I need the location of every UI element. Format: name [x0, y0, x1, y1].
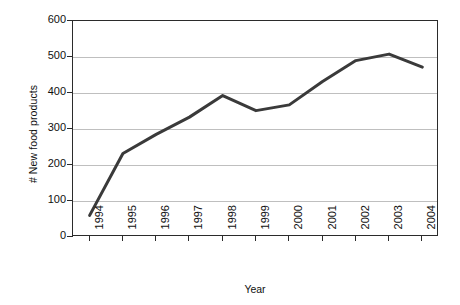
x-axis-tick-label: 2000 — [293, 205, 304, 245]
x-axis-tick-label: 2004 — [426, 205, 437, 245]
plot-area — [72, 20, 438, 236]
x-axis-tick-label: 1997 — [193, 205, 204, 245]
x-axis-tick-label: 1999 — [260, 205, 271, 245]
y-axis-tick-labels: 0100200300400500600 — [30, 0, 66, 305]
x-axis-tickmark — [355, 236, 356, 241]
x-axis-tickmark — [255, 236, 256, 241]
x-axis-tickmark — [188, 236, 189, 241]
y-axis-tick-label: 500 — [32, 50, 66, 61]
x-axis-tick-label: 1998 — [227, 205, 238, 245]
y-axis-tick-label: 100 — [32, 194, 66, 205]
x-axis-tickmark — [122, 236, 123, 241]
y-axis-tick-label: 0 — [32, 230, 66, 241]
x-axis-tickmark — [222, 236, 223, 241]
x-axis-tick-label: 2001 — [327, 205, 338, 245]
x-axis-tickmark — [421, 236, 422, 241]
x-axis-tickmark — [388, 236, 389, 241]
x-axis-tickmark — [155, 236, 156, 241]
y-axis-tick-label: 600 — [32, 14, 66, 25]
x-axis-tickmark — [89, 236, 90, 241]
x-axis-tickmark — [322, 236, 323, 241]
y-axis-tick-label: 400 — [32, 86, 66, 97]
x-axis-tick-label: 2003 — [393, 205, 404, 245]
x-axis-title: Year — [72, 283, 438, 295]
y-axis-tick-label: 200 — [32, 158, 66, 169]
x-axis-tickmark — [288, 236, 289, 241]
line-chart: # New food products 0100200300400500600 … — [0, 0, 460, 305]
x-axis-tick-label: 1994 — [94, 205, 105, 245]
x-axis-tick-label: 1995 — [127, 205, 138, 245]
x-axis-tick-label: 1996 — [160, 205, 171, 245]
y-axis-tick-label: 300 — [32, 122, 66, 133]
data-line-series-1 — [90, 54, 423, 215]
x-axis-tick-label: 2002 — [360, 205, 371, 245]
